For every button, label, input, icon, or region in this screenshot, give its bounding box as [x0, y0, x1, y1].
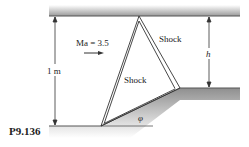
shock-label-lower: Shock [124, 75, 147, 85]
upper-wall [49, 5, 240, 16]
ramp-angle-label: φ [138, 113, 143, 123]
mach-number-label: Ma = 3.5 [76, 38, 109, 48]
dimension-1m-label: 1 m [47, 66, 61, 76]
shock-label-upper: Shock [159, 34, 182, 44]
figure-number: P9.136 [9, 125, 40, 137]
lower-wall-ramp [49, 88, 240, 138]
flow-direction-arrow-icon [84, 51, 104, 55]
dimension-h-label: h [206, 49, 211, 59]
